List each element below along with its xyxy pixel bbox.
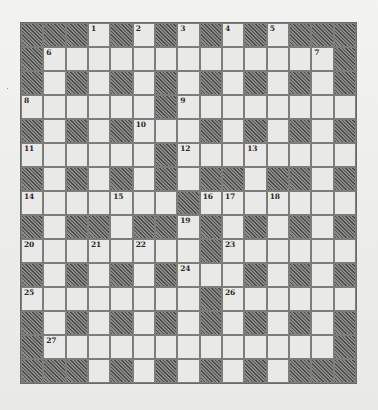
answer-cell[interactable] — [290, 192, 310, 214]
answer-cell[interactable]: 1 — [89, 24, 109, 46]
answer-cell[interactable] — [111, 288, 131, 310]
answer-cell[interactable] — [312, 120, 332, 142]
answer-cell[interactable] — [111, 216, 131, 238]
answer-cell[interactable] — [156, 192, 176, 214]
answer-cell[interactable] — [134, 96, 154, 118]
answer-cell[interactable] — [245, 240, 265, 262]
answer-cell[interactable]: 19 — [178, 216, 198, 238]
answer-cell[interactable] — [67, 336, 87, 358]
answer-cell[interactable] — [223, 360, 243, 382]
answer-cell[interactable]: 17 — [223, 192, 243, 214]
answer-cell[interactable]: 25 — [22, 288, 42, 310]
answer-cell[interactable] — [201, 264, 221, 286]
answer-cell[interactable] — [178, 72, 198, 94]
answer-cell[interactable] — [89, 192, 109, 214]
answer-cell[interactable]: 20 — [22, 240, 42, 262]
answer-cell[interactable]: 6 — [44, 48, 64, 70]
answer-cell[interactable] — [67, 144, 87, 166]
answer-cell[interactable]: 4 — [223, 24, 243, 46]
answer-cell[interactable] — [312, 192, 332, 214]
answer-cell[interactable] — [111, 240, 131, 262]
answer-cell[interactable] — [134, 48, 154, 70]
answer-cell[interactable]: 12 — [178, 144, 198, 166]
answer-cell[interactable] — [268, 216, 288, 238]
answer-cell[interactable]: 13 — [245, 144, 265, 166]
answer-cell[interactable]: 27 — [44, 336, 64, 358]
answer-cell[interactable] — [223, 312, 243, 334]
answer-cell[interactable]: 22 — [134, 240, 154, 262]
answer-cell[interactable] — [156, 120, 176, 142]
answer-cell[interactable] — [335, 192, 355, 214]
answer-cell[interactable] — [312, 264, 332, 286]
answer-cell[interactable] — [111, 96, 131, 118]
answer-cell[interactable] — [178, 312, 198, 334]
answer-cell[interactable] — [312, 96, 332, 118]
answer-cell[interactable] — [89, 96, 109, 118]
answer-cell[interactable] — [44, 120, 64, 142]
answer-cell[interactable] — [223, 336, 243, 358]
answer-cell[interactable] — [44, 216, 64, 238]
answer-cell[interactable] — [290, 96, 310, 118]
answer-cell[interactable] — [245, 192, 265, 214]
answer-cell[interactable] — [245, 336, 265, 358]
answer-cell[interactable] — [223, 144, 243, 166]
answer-cell[interactable] — [134, 288, 154, 310]
answer-cell[interactable] — [89, 144, 109, 166]
answer-cell[interactable] — [156, 336, 176, 358]
answer-cell[interactable] — [290, 144, 310, 166]
answer-cell[interactable] — [44, 96, 64, 118]
answer-cell[interactable] — [178, 168, 198, 190]
answer-cell[interactable] — [44, 240, 64, 262]
answer-cell[interactable] — [201, 48, 221, 70]
answer-cell[interactable] — [156, 48, 176, 70]
answer-cell[interactable]: 14 — [22, 192, 42, 214]
answer-cell[interactable] — [67, 288, 87, 310]
answer-cell[interactable] — [290, 336, 310, 358]
answer-cell[interactable] — [178, 48, 198, 70]
answer-cell[interactable] — [268, 72, 288, 94]
answer-cell[interactable] — [201, 144, 221, 166]
answer-cell[interactable] — [312, 288, 332, 310]
answer-cell[interactable] — [223, 216, 243, 238]
answer-cell[interactable]: 26 — [223, 288, 243, 310]
answer-cell[interactable] — [268, 96, 288, 118]
answer-cell[interactable] — [268, 240, 288, 262]
answer-cell[interactable] — [89, 48, 109, 70]
answer-cell[interactable] — [111, 144, 131, 166]
answer-cell[interactable] — [89, 336, 109, 358]
answer-cell[interactable] — [245, 168, 265, 190]
answer-cell[interactable] — [111, 336, 131, 358]
answer-cell[interactable]: 7 — [312, 48, 332, 70]
answer-cell[interactable] — [178, 336, 198, 358]
answer-cell[interactable] — [312, 312, 332, 334]
answer-cell[interactable] — [223, 264, 243, 286]
answer-cell[interactable]: 24 — [178, 264, 198, 286]
answer-cell[interactable] — [335, 144, 355, 166]
answer-cell[interactable] — [312, 240, 332, 262]
answer-cell[interactable] — [201, 96, 221, 118]
answer-cell[interactable]: 21 — [89, 240, 109, 262]
answer-cell[interactable] — [335, 240, 355, 262]
answer-cell[interactable] — [89, 264, 109, 286]
answer-cell[interactable] — [312, 72, 332, 94]
answer-cell[interactable]: 2 — [134, 24, 154, 46]
answer-cell[interactable] — [111, 48, 131, 70]
answer-cell[interactable] — [89, 288, 109, 310]
answer-cell[interactable] — [312, 336, 332, 358]
answer-cell[interactable] — [312, 144, 332, 166]
answer-cell[interactable] — [335, 96, 355, 118]
answer-cell[interactable] — [178, 120, 198, 142]
answer-cell[interactable] — [134, 168, 154, 190]
answer-cell[interactable] — [268, 120, 288, 142]
answer-cell[interactable] — [89, 312, 109, 334]
answer-cell[interactable] — [290, 48, 310, 70]
answer-cell[interactable]: 15 — [111, 192, 131, 214]
answer-cell[interactable]: 9 — [178, 96, 198, 118]
answer-cell[interactable] — [312, 216, 332, 238]
answer-cell[interactable]: 18 — [268, 192, 288, 214]
answer-cell[interactable] — [89, 72, 109, 94]
answer-cell[interactable] — [44, 192, 64, 214]
answer-cell[interactable] — [223, 96, 243, 118]
answer-cell[interactable] — [44, 288, 64, 310]
answer-cell[interactable] — [223, 120, 243, 142]
